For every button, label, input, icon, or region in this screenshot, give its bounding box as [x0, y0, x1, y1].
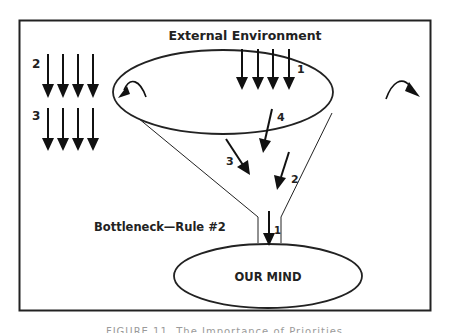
funnel — [113, 50, 333, 243]
bottleneck-label: Bottleneck—Rule #2 — [94, 220, 226, 234]
figure-caption: FIGURE 11. The Importance of Priorities — [0, 326, 449, 333]
label-bottleneck-1: 1 — [274, 225, 281, 236]
overflow-arrow-right — [386, 81, 420, 99]
overflow-arrow-left — [118, 82, 146, 98]
label-group-2: 2 — [32, 57, 40, 71]
label-group-1: 1 — [297, 63, 305, 76]
arrow-group-1 — [236, 49, 295, 90]
arrow-group-3 — [42, 108, 99, 151]
label-arrow-3: 3 — [226, 155, 234, 168]
external-environment-title: External Environment — [168, 28, 321, 43]
label-arrow-2: 2 — [291, 173, 299, 186]
label-group-3: 3 — [32, 109, 40, 123]
label-arrow-4: 4 — [277, 111, 285, 124]
funnel-arrow-2 — [274, 152, 289, 190]
arrow-group-2 — [42, 54, 99, 98]
our-mind-label: OUR MIND — [235, 270, 302, 284]
funnel-diagram: External Environment 2 3 1 4 3 2 1 Bottl… — [0, 0, 449, 333]
